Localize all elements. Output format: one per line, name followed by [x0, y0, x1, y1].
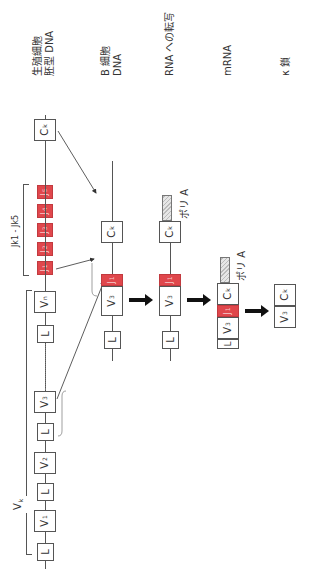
mrna-polyA-tail [220, 257, 230, 283]
j-cluster-label: Jk1 - Jk5 [10, 213, 22, 249]
arrow-v3-to-bcell [57, 281, 104, 399]
germline-V2: V2 [34, 452, 56, 474]
mrna-J1: J1 [217, 305, 239, 317]
germline-label: 生殖細胞 胚型 DNA [32, 31, 56, 76]
rna-Ck: Ck [159, 221, 181, 243]
arrow-j1-to-bcell [56, 259, 94, 269]
v3-brace [58, 391, 66, 436]
j-cluster-bracket [23, 184, 29, 276]
vdj-recombination-diagram: L V1 L V2 L V3 L Vn Vk J1 J2 J3 J4 J5 Jk… [0, 0, 312, 581]
rna-L: L [162, 331, 179, 349]
germline-L-3: L [37, 423, 54, 441]
v-cluster-bracket [26, 290, 32, 555]
germline-V3: V3 [34, 391, 56, 413]
bcell-Ck: Ck [101, 221, 123, 243]
arrow-ck-to-bcell [58, 131, 96, 193]
germline-V1: V1 [34, 510, 56, 532]
germline-Ck: Ck [34, 119, 56, 141]
germline-L-n: L [37, 325, 54, 343]
mrna-polyA-label: ポリ A [233, 251, 248, 281]
rna-polyA-label: ポリ A [176, 189, 191, 219]
germline-gap-dots [45, 344, 46, 390]
kappa-label: κ 鎖 [280, 57, 292, 76]
germline-L-2: L [37, 483, 54, 501]
mrna-label: mRNA [222, 45, 234, 76]
germline-L-1: L [37, 543, 54, 561]
bcell-brace [92, 263, 97, 296]
arrow-mrna-to-kappa [245, 309, 263, 313]
germline-Vn: Vn [34, 291, 56, 313]
rna-label: RNA への転写 [164, 12, 176, 76]
bcell-L: L [104, 331, 121, 349]
rna-J1: J1 [159, 274, 181, 286]
mrna-V3: V3 [217, 317, 239, 339]
arrow-rna-to-mrna [187, 298, 205, 302]
rna-polyA-tail [162, 195, 172, 221]
v-cluster-label: Vk [12, 496, 27, 513]
rna-V3: V3 [159, 286, 181, 316]
bcell-label: B 細胞 DNA [100, 46, 124, 76]
bcell-J1: J1 [101, 274, 123, 286]
mrna-Ck: Ck [217, 283, 239, 305]
arrow-bcell-to-rna [129, 298, 147, 302]
kappa-V3: V3 [274, 306, 296, 328]
mrna-L: L [217, 339, 239, 349]
kappa-Ck: Ck [274, 284, 296, 306]
bcell-V3: V3 [101, 286, 123, 316]
